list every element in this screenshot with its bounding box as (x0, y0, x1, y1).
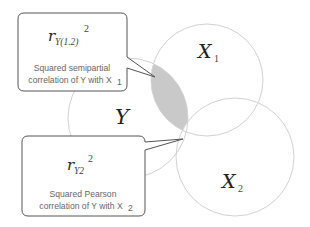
svg-text:correlation of Y with X: correlation of Y with X (28, 75, 112, 85)
svg-text:Y2: Y2 (74, 166, 84, 176)
caption-semipartial-line1: Squared semipartial (34, 63, 111, 73)
svg-text:2: 2 (84, 23, 89, 34)
svg-text:Y(1.2): Y(1.2) (55, 37, 79, 48)
svg-text:2: 2 (88, 153, 93, 164)
svg-text:correlation of Y with X: correlation of Y with X (39, 201, 123, 211)
circle-x2 (176, 98, 294, 216)
svg-text:2: 2 (238, 183, 243, 194)
svg-text:X: X (220, 170, 237, 192)
svg-text:X: X (196, 40, 213, 62)
svg-text:1: 1 (117, 77, 122, 87)
venn-diagram: Y X 1 X 2 r Y(1.2) 2 Squared semipartial… (0, 0, 310, 227)
svg-text:1: 1 (214, 53, 219, 64)
caption-pearson-line1: Squared Pearson (50, 189, 117, 199)
callout-pearson: r Y2 2 Squared Pearson correlation of Y … (22, 136, 183, 216)
callout-semipartial: r Y(1.2) 2 Squared semipartial correlati… (18, 13, 155, 91)
svg-text:2: 2 (128, 203, 133, 213)
label-x1: X 1 (196, 40, 219, 64)
label-y: Y (115, 105, 131, 129)
label-x2: X 2 (220, 170, 243, 194)
